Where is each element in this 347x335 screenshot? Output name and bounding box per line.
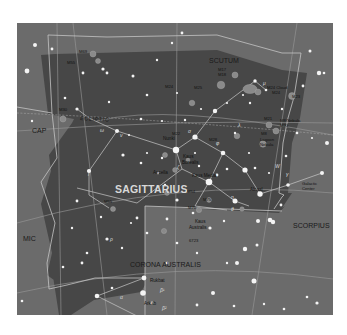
- star: [320, 171, 324, 175]
- star: [146, 94, 149, 97]
- star: [254, 167, 257, 170]
- star: [142, 276, 147, 281]
- label-scorpius: SCORPIUS: [293, 222, 330, 229]
- star: [136, 217, 139, 220]
- label-m23: M23: [292, 94, 301, 99]
- star: [221, 151, 226, 156]
- star: [156, 59, 158, 61]
- label-sagittarius: SAGITTARIUS: [115, 183, 188, 195]
- label-greek-beta1: β¹: [159, 287, 165, 293]
- star: [249, 102, 251, 104]
- label-kaus-australis-1: Kaus: [195, 219, 206, 224]
- star: [208, 226, 211, 229]
- label-corona-australis: CORONA AUSTRALIS: [130, 261, 201, 268]
- star: [283, 308, 286, 311]
- star: [108, 101, 110, 103]
- star: [302, 85, 305, 88]
- label-ascella: Ascella: [153, 170, 168, 175]
- label-kaus-borealis-2: Borealis: [182, 160, 199, 165]
- label-m22: M22: [172, 131, 181, 136]
- star: [132, 75, 135, 78]
- label-m24: M24: [272, 90, 281, 95]
- star: [166, 218, 169, 221]
- label-m8: M8: [261, 131, 267, 136]
- star: [171, 42, 173, 44]
- star: [296, 132, 299, 135]
- star: [128, 134, 130, 136]
- deep-sky-object-marker: [111, 207, 116, 212]
- label-m18: M18: [218, 72, 227, 77]
- label-scutum: SCUTUM: [209, 57, 239, 64]
- deep-sky-object-marker: [232, 72, 238, 78]
- star: [206, 179, 213, 186]
- label-greek-rho: ρ: [109, 236, 113, 242]
- star: [106, 72, 109, 75]
- label-kaus-australis-2: Australis: [189, 225, 207, 230]
- deep-sky-object-marker: [240, 207, 244, 211]
- label-m16: M24: [165, 84, 174, 89]
- star: [192, 212, 195, 215]
- deep-sky-object-marker: [96, 59, 101, 64]
- star: [325, 141, 329, 145]
- star: [101, 67, 104, 70]
- star: [281, 108, 283, 110]
- star: [64, 97, 67, 100]
- label-alnasl: Alnasl: [250, 187, 263, 192]
- label-m21: M21: [264, 116, 273, 121]
- star: [111, 287, 114, 290]
- star: [256, 219, 260, 223]
- label-lagoon-2: Nebula: [260, 142, 274, 147]
- label-m55: M55: [104, 199, 113, 204]
- label-galactic-center-2: Center: [302, 186, 315, 191]
- deep-sky-object-marker: [161, 228, 166, 233]
- star: [256, 244, 259, 247]
- star: [242, 94, 244, 96]
- star: [51, 48, 54, 51]
- star: [309, 50, 312, 53]
- star: [140, 162, 143, 165]
- deep-sky-object-marker: [196, 207, 201, 212]
- star: [140, 290, 146, 296]
- star: [62, 266, 65, 269]
- label-m20: M20: [280, 123, 289, 128]
- star: [226, 102, 228, 104]
- label-m70: M75: [203, 197, 212, 202]
- star: [184, 119, 186, 121]
- label-greek-beta2: β²: [161, 305, 167, 311]
- star: [192, 134, 197, 139]
- label-greek-eta: η: [231, 194, 234, 200]
- star: [196, 304, 199, 307]
- star: [315, 301, 318, 304]
- star: [268, 172, 270, 174]
- star: [176, 242, 179, 245]
- star: [200, 108, 202, 110]
- star: [286, 183, 290, 187]
- label-greek-alpha: α: [120, 294, 123, 300]
- label-kaus-borealis-1: Kaus: [183, 154, 194, 159]
- star: [140, 118, 143, 121]
- label-kaus-media: Kaus Media: [192, 173, 217, 178]
- star: [181, 32, 184, 35]
- star: [173, 147, 179, 153]
- star: [280, 204, 283, 207]
- label-greek-theta: θ: [231, 206, 234, 212]
- star: [223, 220, 225, 222]
- star: [257, 191, 262, 196]
- star: [213, 109, 217, 113]
- star: [317, 71, 321, 75]
- star: [234, 132, 236, 134]
- deep-sky-object-marker: [163, 153, 168, 158]
- star: [198, 165, 200, 167]
- star: [130, 222, 132, 224]
- star: [271, 220, 275, 224]
- label-m25: M25: [194, 85, 203, 90]
- star: [121, 153, 124, 156]
- star: [86, 252, 89, 255]
- star: [323, 72, 326, 75]
- star: [306, 296, 309, 299]
- star: [31, 120, 33, 122]
- star: [76, 200, 79, 203]
- deep-sky-object-marker: [60, 116, 66, 122]
- star: [242, 167, 247, 172]
- star: [248, 152, 250, 154]
